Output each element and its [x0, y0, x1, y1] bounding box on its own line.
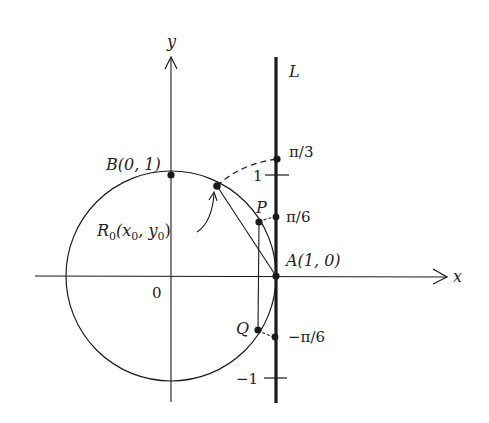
- pi-over-3-label: π/3: [289, 143, 313, 161]
- dashed-arc-r0-to-pi3: [217, 159, 277, 186]
- point-Q-label: Q: [236, 319, 249, 338]
- x-axis: [35, 276, 447, 277]
- point-Q: [254, 326, 261, 333]
- x-axis-label: x: [453, 267, 462, 286]
- point-B-label: B(0, 1): [105, 155, 161, 174]
- segment-p-to-q: [258, 222, 259, 330]
- y-axis-label: y: [166, 32, 177, 51]
- point-P-label: P: [255, 198, 267, 217]
- chord-r0-to-a: [217, 186, 276, 276]
- tick-neg-one-label: −1: [236, 370, 258, 388]
- origin-label: 0: [152, 284, 162, 302]
- point-R0: [213, 182, 221, 190]
- point-B: [167, 171, 174, 178]
- point-A-label: A(1, 0): [284, 251, 341, 270]
- point-pi-over-6: [273, 214, 280, 221]
- point-neg-pi-over-6: [272, 334, 279, 341]
- r0-pointer-arrow: [197, 194, 214, 232]
- point-A: [272, 272, 279, 279]
- pi-over-6-label: π/6: [286, 208, 310, 226]
- neg-pi-over-6-label: −π/6: [288, 328, 325, 346]
- unit-circle-diagram: x y 0 L 1 −1 B(0, 1) A(1, 0) P Q π/3 π/6…: [0, 0, 489, 423]
- line-L-label: L: [288, 62, 300, 81]
- point-pi-over-3: [273, 155, 280, 162]
- tick-one-label: 1: [253, 167, 263, 185]
- point-R0-label: R0(x0, y0): [96, 221, 171, 243]
- point-P: [255, 218, 262, 225]
